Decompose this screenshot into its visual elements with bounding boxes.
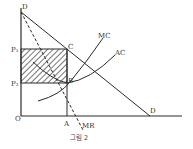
- label-p2: P₂: [11, 80, 19, 88]
- label-a: A: [63, 120, 70, 128]
- figure-caption: 그림 2: [70, 134, 88, 142]
- label-origin: O: [15, 115, 21, 123]
- label-b: B: [68, 77, 73, 85]
- label-d-bottom: D: [150, 107, 156, 115]
- label-p1: P₁: [11, 46, 19, 54]
- profit-area: [21, 49, 67, 83]
- label-c: C: [68, 43, 73, 51]
- label-mr: MR: [82, 122, 95, 130]
- monopoly-diagram: D D P₁ P₂ C B A O MC AC MR 그림 2: [0, 0, 193, 149]
- label-mc: MC: [98, 32, 111, 40]
- label-d-top: D: [22, 3, 28, 11]
- label-ac: AC: [114, 49, 125, 57]
